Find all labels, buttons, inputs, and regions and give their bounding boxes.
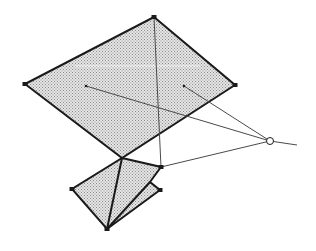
vertex-marker bbox=[105, 227, 110, 231]
large-quad-group bbox=[25, 17, 235, 158]
projection-line bbox=[184, 86, 270, 141]
vertex-marker bbox=[23, 82, 28, 86]
projection-line bbox=[161, 141, 270, 167]
vertex-marker bbox=[70, 187, 75, 191]
vertex-marker bbox=[152, 15, 157, 19]
vertex-marker bbox=[158, 188, 163, 192]
center-point-dot bbox=[85, 85, 88, 88]
large-quadrilateral bbox=[25, 17, 235, 158]
vertex-marker bbox=[233, 83, 238, 87]
diagram-canvas bbox=[0, 0, 316, 251]
vertex-marker bbox=[159, 165, 164, 169]
projection-line bbox=[270, 141, 297, 145]
perspective-projection-diagram bbox=[0, 0, 316, 251]
vanishing-point-circle bbox=[267, 138, 274, 145]
center-point-dot bbox=[183, 85, 186, 88]
small-shape-group bbox=[72, 158, 161, 229]
